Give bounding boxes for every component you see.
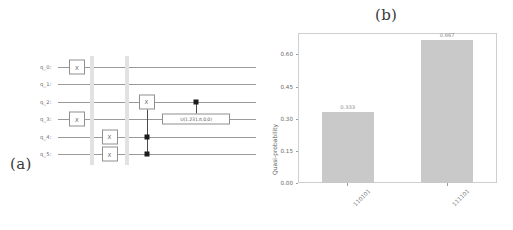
qubit-label-5: q_5:	[40, 151, 52, 157]
x-gate-q5: X	[102, 147, 118, 162]
qubit-label-1: q_1:	[40, 81, 52, 87]
x-tick-mark-0	[347, 183, 348, 186]
control-dot-q5	[144, 152, 149, 157]
y-tick-label-2: 0.30	[272, 116, 293, 122]
x-gate-q2-controlled: X	[139, 94, 155, 109]
qubit-wire-4	[58, 137, 256, 138]
x-gate-q3: X	[69, 112, 85, 127]
x-tick-label-0: 110101	[352, 188, 371, 207]
quasi-probability-bar-chart: 0.000.150.300.450.60Quasi-probability0.3…	[262, 0, 513, 230]
y-tick-label-4: 0.60	[272, 51, 293, 57]
qubit-wire-2	[58, 102, 256, 103]
panel-b-chart: (b) 0.000.150.300.450.60Quasi-probabilit…	[262, 0, 513, 230]
panel-a-circuit: (a) q_0:q_1:q_2:q_3:q_4:q_5:XXXXXU(1.231…	[0, 0, 262, 230]
barrier-0	[90, 56, 94, 165]
y-axis-label: Quasi-probability	[271, 124, 278, 175]
qubit-label-3: q_3:	[40, 116, 52, 122]
qubit-label-2: q_2:	[40, 99, 52, 105]
y-tick-mark-3	[296, 87, 299, 88]
qubit-label-0: q_0:	[40, 64, 52, 70]
bar-111101	[421, 40, 473, 183]
x-tick-label-1: 111101	[452, 188, 471, 207]
y-tick-mark-2	[296, 119, 299, 120]
y-tick-label-3: 0.45	[272, 84, 293, 90]
control-dot-q2	[194, 99, 199, 104]
u-gate-q3: U(1.231,π,0,0)	[162, 114, 230, 125]
barrier-1	[125, 56, 129, 165]
y-tick-mark-0	[296, 183, 299, 184]
bar-110101	[322, 112, 374, 183]
control-connector-q2-q5	[147, 102, 148, 154]
qubit-label-4: q_4:	[40, 134, 52, 140]
x-gate-q0: X	[69, 60, 85, 75]
qubit-wire-1	[58, 84, 256, 85]
quantum-circuit-diagram: q_0:q_1:q_2:q_3:q_4:q_5:XXXXXU(1.231,π,0…	[0, 0, 262, 230]
y-tick-mark-4	[296, 54, 299, 55]
x-gate-q4: X	[102, 129, 118, 144]
x-tick-mark-1	[447, 183, 448, 186]
y-tick-label-0: 0.00	[272, 180, 293, 186]
bar-value-label-0: 0.333	[340, 104, 355, 110]
y-tick-mark-1	[296, 151, 299, 152]
qubit-wire-5	[58, 154, 256, 155]
qubit-wire-0	[58, 67, 256, 68]
control-dot-q4	[144, 134, 149, 139]
bar-value-label-1: 0.667	[440, 32, 455, 38]
